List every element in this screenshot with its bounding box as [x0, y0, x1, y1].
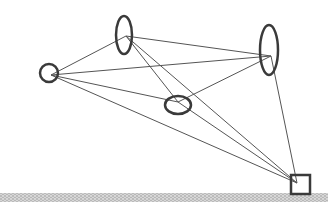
diagram-canvas [0, 0, 328, 206]
node-b-ellipse [116, 16, 132, 54]
node-d-ellipse [165, 96, 191, 114]
ground-strip [0, 193, 328, 202]
network-diagram [0, 0, 328, 206]
ground-surface [0, 193, 328, 202]
node-c-ellipse [260, 25, 278, 75]
edge-d-e [178, 102, 297, 183]
edge-b-c [126, 36, 271, 56]
edge-a-d [51, 75, 178, 102]
node-e-square [291, 175, 310, 194]
edge-a-e [51, 75, 297, 183]
